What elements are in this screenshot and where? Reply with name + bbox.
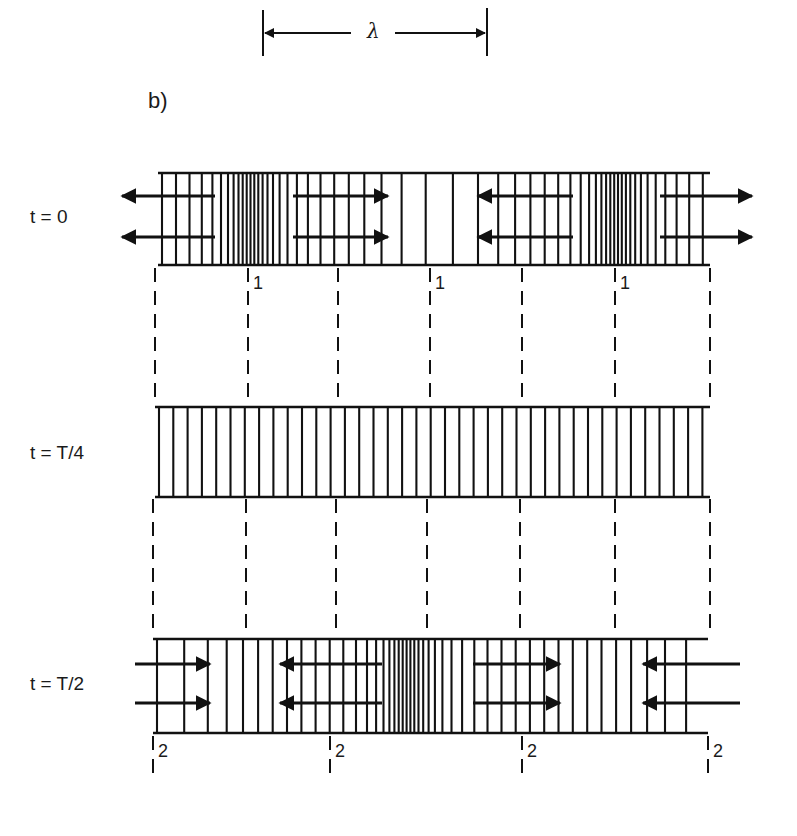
strip-tT2 — [135, 639, 740, 733]
strip-label-tT4: t = T/4 — [30, 442, 84, 464]
node-label: 1 — [435, 273, 445, 294]
strip-label-tT2: t = T/2 — [30, 673, 84, 695]
strips — [122, 173, 752, 733]
node-label: 2 — [527, 741, 537, 762]
node-label: 1 — [253, 273, 263, 294]
strip-t0 — [122, 173, 752, 265]
standing-wave-diagram — [0, 0, 797, 836]
panel-label: b) — [148, 88, 168, 114]
node-label: 2 — [713, 741, 723, 762]
node-label: 2 — [335, 741, 345, 762]
strip-label-t0: t = 0 — [30, 206, 68, 228]
strip-tT4 — [155, 407, 710, 497]
wavelength-symbol: λ — [363, 19, 384, 43]
node-label: 2 — [158, 741, 168, 762]
node-label: 1 — [620, 273, 630, 294]
dashed-guide-lines — [153, 268, 710, 782]
